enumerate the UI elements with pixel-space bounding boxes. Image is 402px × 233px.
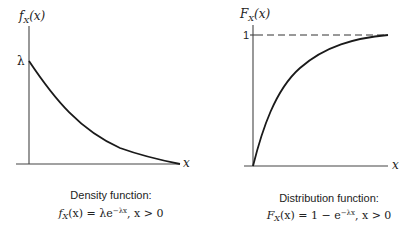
distribution-curve	[253, 35, 388, 166]
density-curve	[29, 61, 180, 164]
density-plot: fX(x) λ x Density function: fX(x) = λe−λ…	[16, 9, 190, 221]
distribution-plot: FX(x) 1 x Distribution function: FX(x) =…	[239, 7, 399, 223]
distribution-x-label: x	[392, 158, 399, 172]
exponential-distribution-figure: fX(x) λ x Density function: fX(x) = λe−λ…	[0, 0, 402, 233]
distribution-one-tick: 1	[243, 29, 249, 41]
density-y-label: fX(x)	[18, 9, 46, 25]
density-caption-formula: fX(x) = λe−λx, x > 0	[58, 207, 164, 221]
density-caption-title: Density function:	[70, 189, 151, 201]
distribution-caption-formula: FX(x) = 1 − e−λx, x > 0	[266, 209, 392, 223]
distribution-caption-title: Distribution function:	[279, 192, 379, 204]
distribution-y-label: FX(x)	[239, 7, 270, 23]
density-x-label: x	[183, 156, 190, 170]
density-lambda-tick: λ	[17, 54, 25, 68]
